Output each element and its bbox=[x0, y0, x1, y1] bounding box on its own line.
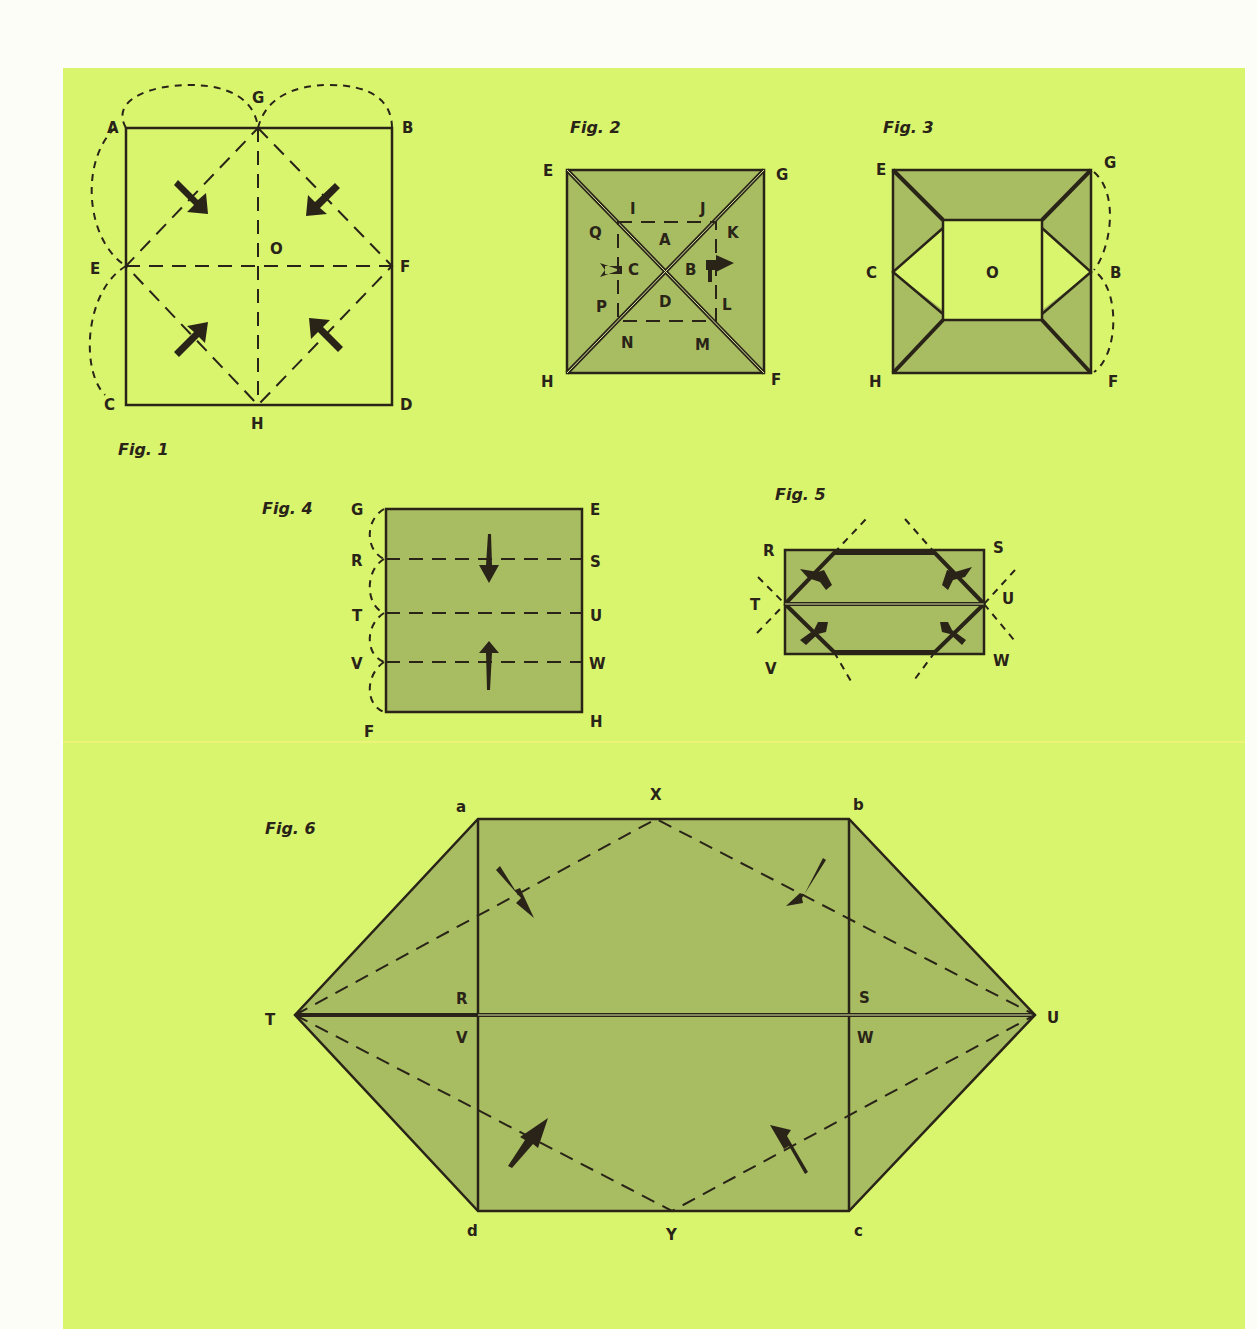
fig1-arc-g-b bbox=[258, 85, 392, 128]
fig1-label-c: C bbox=[104, 396, 115, 414]
fig1-label-f: F bbox=[400, 258, 410, 276]
fig3-caption: Fig. 3 bbox=[883, 118, 934, 137]
fig2-label-c: C bbox=[628, 261, 639, 279]
fig2-label-d: D bbox=[659, 293, 671, 311]
fig6-label-w: W bbox=[857, 1029, 874, 1047]
fig2-label-l: L bbox=[722, 296, 732, 314]
fig2-label-p: P bbox=[596, 298, 607, 316]
figure-3: E G C O B H F Fig. 3 bbox=[866, 118, 1121, 391]
fig6-caption: Fig. 6 bbox=[265, 819, 316, 838]
fig3-label-c: C bbox=[866, 264, 877, 282]
fig2-label-m: M bbox=[695, 336, 710, 354]
figure-6: a X b R S T U V W d Y c Fig. 6 bbox=[265, 786, 1059, 1244]
fig2-label-f: F bbox=[771, 371, 781, 389]
fig4-label-g: G bbox=[351, 501, 363, 519]
fig3-label-e: E bbox=[876, 161, 886, 179]
fig6-label-c: c bbox=[854, 1222, 863, 1240]
fig5-label-u: U bbox=[1002, 590, 1014, 608]
fig5-label-w: W bbox=[993, 652, 1010, 670]
fig4-label-r: R bbox=[351, 552, 363, 570]
fig1-arc-a-g bbox=[122, 85, 258, 128]
fig6-label-b: b bbox=[853, 796, 864, 814]
fig6-label-v: V bbox=[456, 1029, 468, 1047]
fig2-label-i: I bbox=[630, 200, 636, 218]
fig3-arc-g-b bbox=[1094, 172, 1110, 270]
fig1-arc-e-c bbox=[90, 266, 126, 395]
fig5-label-r: R bbox=[763, 542, 775, 560]
fig2-label-k: K bbox=[727, 224, 740, 242]
fig3-label-f: F bbox=[1108, 373, 1118, 391]
fig6-label-s: S bbox=[859, 989, 870, 1007]
fig5-caption: Fig. 5 bbox=[775, 485, 826, 504]
fig4-label-u: U bbox=[590, 607, 602, 625]
fig1-label-g: G bbox=[252, 89, 264, 107]
fig2-label-e: E bbox=[543, 162, 553, 180]
fig6-label-x: X bbox=[650, 786, 662, 804]
fig6-label-a: a bbox=[456, 798, 466, 816]
folding-diagram: A B C D E F G H O Fig. 1 E G H F I J K Q… bbox=[0, 0, 1257, 1329]
figure-2: E G H F I J K Q A C B P D L N M Fig. 2 bbox=[541, 118, 788, 391]
fig4-caption: Fig. 4 bbox=[262, 499, 313, 518]
figure-1: A B C D E F G H O Fig. 1 bbox=[90, 85, 414, 459]
fig1-label-d: D bbox=[400, 396, 412, 414]
fig1-label-o: O bbox=[270, 240, 283, 258]
fig1-label-b: B bbox=[402, 119, 413, 137]
fig1-caption: Fig. 1 bbox=[118, 440, 169, 459]
fig2-label-q: Q bbox=[589, 224, 602, 242]
fig4-label-w: W bbox=[589, 655, 606, 673]
fig3-label-h: H bbox=[869, 373, 882, 391]
fig4-label-s: S bbox=[590, 553, 601, 571]
fig1-label-e: E bbox=[90, 260, 100, 278]
fig2-label-j: J bbox=[699, 200, 706, 218]
fig4-label-f: F bbox=[364, 723, 374, 741]
fig5-label-v: V bbox=[765, 660, 777, 678]
fig4-label-v: V bbox=[351, 655, 363, 673]
fig3-label-o: O bbox=[986, 264, 999, 282]
fig3-label-b: B bbox=[1110, 264, 1121, 282]
fig2-label-g: G bbox=[776, 166, 788, 184]
fig6-label-d: d bbox=[467, 1222, 478, 1240]
fig1-arc-a-e bbox=[92, 128, 126, 266]
arrow-icon bbox=[306, 183, 340, 216]
figure-5: R S T U V W Fig. 5 bbox=[750, 485, 1015, 683]
arrow-icon bbox=[174, 180, 208, 214]
fig2-label-b: B bbox=[685, 261, 696, 279]
fig4-label-e: E bbox=[590, 501, 600, 519]
fig2-caption: Fig. 2 bbox=[570, 118, 621, 137]
fig3-arc-b-f bbox=[1094, 274, 1113, 372]
arrow-icon bbox=[174, 322, 208, 357]
fig1-label-h: H bbox=[251, 415, 264, 433]
fig6-label-u: U bbox=[1047, 1009, 1059, 1027]
fig4-paper bbox=[386, 509, 582, 712]
fig2-label-n: N bbox=[621, 334, 634, 352]
fig2-label-a: A bbox=[659, 231, 671, 249]
fig3-label-g: G bbox=[1104, 154, 1116, 172]
fig6-label-y: Y bbox=[665, 1226, 678, 1244]
fig1-label-a: A bbox=[107, 119, 119, 137]
fig6-label-t: T bbox=[265, 1011, 276, 1029]
fig5-label-s: S bbox=[993, 539, 1004, 557]
fig4-label-h: H bbox=[590, 713, 603, 731]
fig5-label-t: T bbox=[750, 596, 761, 614]
fig4-label-t: T bbox=[352, 607, 363, 625]
fig6-label-r: R bbox=[456, 990, 468, 1008]
fig2-label-h: H bbox=[541, 373, 554, 391]
figure-4: G E R S T U V W F H Fig. 4 bbox=[262, 499, 606, 741]
